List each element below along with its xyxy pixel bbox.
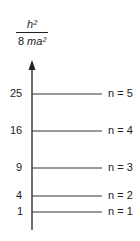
level-label: n = 3 [108, 162, 133, 173]
level-label: n = 5 [108, 88, 133, 99]
level-value: 25 [10, 88, 22, 99]
level-value: 16 [10, 125, 22, 136]
arrow-up-icon [29, 60, 36, 70]
level-value: 4 [16, 190, 22, 201]
level-label: n = 4 [108, 125, 133, 136]
level-label: n = 2 [108, 190, 133, 201]
level-value: 1 [17, 206, 23, 217]
level-label: n = 1 [108, 206, 133, 217]
level-value: 9 [16, 162, 22, 173]
